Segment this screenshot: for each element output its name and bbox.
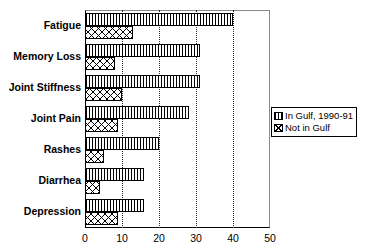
bar [85,106,189,119]
bar [85,181,100,194]
bar-group [85,199,270,225]
bar-group [85,106,270,132]
bar-group [85,13,270,39]
bar-group [85,137,270,163]
category-label: Diarrhea [38,175,81,186]
x-tick-label-30: 30 [181,232,211,244]
x-tick-label-0: 0 [70,232,100,244]
bar [85,13,233,26]
bar [85,168,144,181]
category-label: Joint Stiffness [9,82,81,93]
category-label: Fatigue [44,20,81,31]
legend-label-not-in-gulf: Not in Gulf [285,123,330,133]
category-label: Rashes [44,144,81,155]
bar [85,150,104,163]
legend-swatch-in-gulf-icon [274,112,283,120]
bar [85,137,159,150]
category-label: Memory Loss [13,51,81,62]
bar [85,119,118,132]
bar [85,75,200,88]
bar [85,88,122,101]
bar [85,57,115,70]
x-tick-label-50: 50 [255,232,285,244]
bar-chart-screenshot: FatigueMemory LossJoint StiffnessJoint P… [0,0,372,251]
legend-item-not-in-gulf: Not in Gulf [274,122,353,134]
x-tick-label-20: 20 [144,232,174,244]
bar [85,212,118,225]
chart-legend: In Gulf, 1990-91 Not in Gulf [271,107,357,137]
category-label: Joint Pain [31,113,81,124]
bar [85,26,133,39]
bar-group [85,168,270,194]
legend-swatch-not-in-gulf-icon [274,124,283,132]
x-tick-label-40: 40 [218,232,248,244]
legend-label-in-gulf: In Gulf, 1990-91 [285,111,353,121]
bar [85,44,200,57]
bar-group [85,75,270,101]
legend-item-in-gulf: In Gulf, 1990-91 [274,110,353,122]
x-tick-label-10: 10 [107,232,137,244]
category-label: Depression [24,206,81,217]
bar-group [85,44,270,70]
bar [85,199,144,212]
